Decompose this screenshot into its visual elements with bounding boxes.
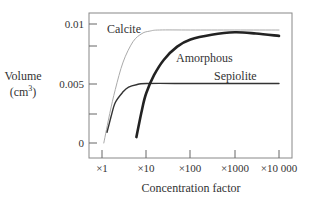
x-tick-10: ×10	[137, 162, 155, 174]
chart: 0.01 0.005 0 ×1 ×10 ×100 ×1000 ×10 000 V…	[0, 0, 309, 201]
y-axis-unit: (cm3)	[10, 84, 37, 99]
y-axis-title: Volume	[4, 69, 41, 83]
x-tick-100: ×100	[179, 162, 202, 174]
y-tick-0: 0	[79, 137, 85, 149]
y-tick-0.005: 0.005	[59, 78, 84, 90]
curves	[104, 30, 279, 143]
curve-amorphous	[136, 32, 279, 137]
y-tick-0.01: 0.01	[65, 18, 84, 30]
x-tick-10000: ×10 000	[261, 162, 298, 174]
label-amorphous: Amorphous	[176, 51, 233, 65]
x-tick-1000: ×1000	[221, 162, 250, 174]
curve-sepiolite	[107, 83, 279, 132]
x-axis	[102, 150, 279, 158]
label-calcite: Calcite	[107, 22, 141, 36]
y-axis	[89, 24, 97, 143]
x-tick-1: ×1	[96, 162, 108, 174]
x-axis-title: Concentration factor	[142, 181, 241, 195]
label-sepiolite: Sepiolite	[214, 69, 257, 83]
